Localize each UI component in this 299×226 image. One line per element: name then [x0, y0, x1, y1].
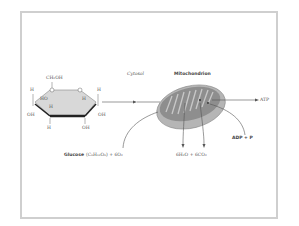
adp-label: ADP + P [232, 136, 253, 141]
flow-arrow [102, 101, 160, 104]
glucose-ring-icon [33, 82, 98, 124]
left-bottom-oh-label: OH [27, 113, 35, 118]
ch2oh-label: CH₂OH [46, 76, 63, 81]
mitochondrion-label: Mitochondrion [174, 72, 211, 77]
products-label: 6H₂O + 6CO₂ [176, 153, 207, 158]
atp-label: ATP [260, 98, 269, 103]
glucose-formula-label: (C₆H₁₂O₆) + 6O₂ [86, 153, 123, 158]
inner-ho-label: HO [40, 97, 48, 102]
right-bottom-oh-label: OH [98, 113, 106, 118]
glucose-label: Glucose [64, 153, 84, 158]
inner-right-h-label: H [82, 97, 86, 102]
inner-h-label: H [49, 105, 53, 110]
diagram-canvas [0, 0, 299, 226]
bottom-oh-label: OH [82, 126, 90, 131]
glucose-input-arrow [123, 112, 158, 148]
cytosol-label: Cytosol [127, 72, 144, 77]
right-top-h-label: H [97, 88, 101, 93]
left-top-h-label: H [30, 88, 34, 93]
bottom-h-label: H [47, 126, 51, 131]
